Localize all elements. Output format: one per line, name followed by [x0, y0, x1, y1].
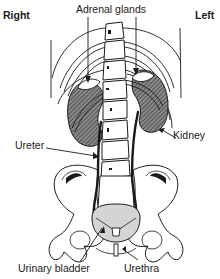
label-urinary-bladder: Urinary bladder: [18, 263, 90, 274]
label-kidney: Kidney: [173, 130, 205, 141]
rib-outer-left: [122, 28, 180, 60]
orientation-label-right: Right: [3, 10, 30, 21]
label-adrenal-glands: Adrenal glands: [76, 4, 146, 15]
rib-outer-left-edge: [180, 28, 181, 98]
orientation-label-left: Left: [195, 10, 214, 21]
label-urethra: Urethra: [124, 263, 159, 274]
leader-ureter: [46, 148, 96, 156]
urethra: [114, 244, 118, 256]
spine: [101, 22, 130, 178]
label-ureter: Ureter: [15, 140, 44, 151]
rib-outer-right: [52, 28, 108, 78]
bladder-neck: [112, 228, 120, 236]
